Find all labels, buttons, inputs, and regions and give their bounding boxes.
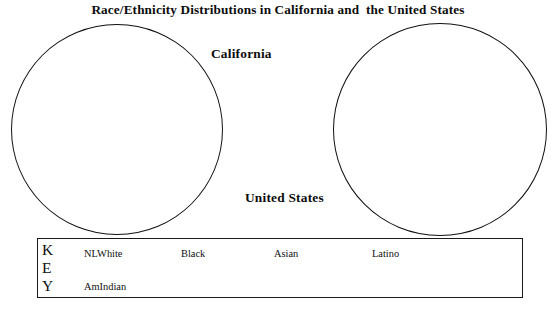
legend-key-letter-k: K xyxy=(42,241,53,259)
legend-item-latino: Latino xyxy=(372,248,399,259)
legend-key-letter-y: Y xyxy=(42,277,53,295)
page-title: Race/Ethnicity Distributions in Californ… xyxy=(0,2,556,18)
legend-key-word: K E Y xyxy=(42,241,68,295)
pie-chart-california xyxy=(11,24,223,235)
pie-label-united-states: United States xyxy=(245,190,324,206)
legend-key-letter-e: E xyxy=(42,259,51,277)
pie-label-california: California xyxy=(211,46,272,62)
legend-item-amindian: AmIndian xyxy=(84,281,126,292)
pie-chart-united-states xyxy=(333,23,547,236)
legend-item-asian: Asian xyxy=(274,248,298,259)
legend-item-nlwhite: NLWhite xyxy=(84,248,122,259)
legend-item-black: Black xyxy=(181,248,205,259)
